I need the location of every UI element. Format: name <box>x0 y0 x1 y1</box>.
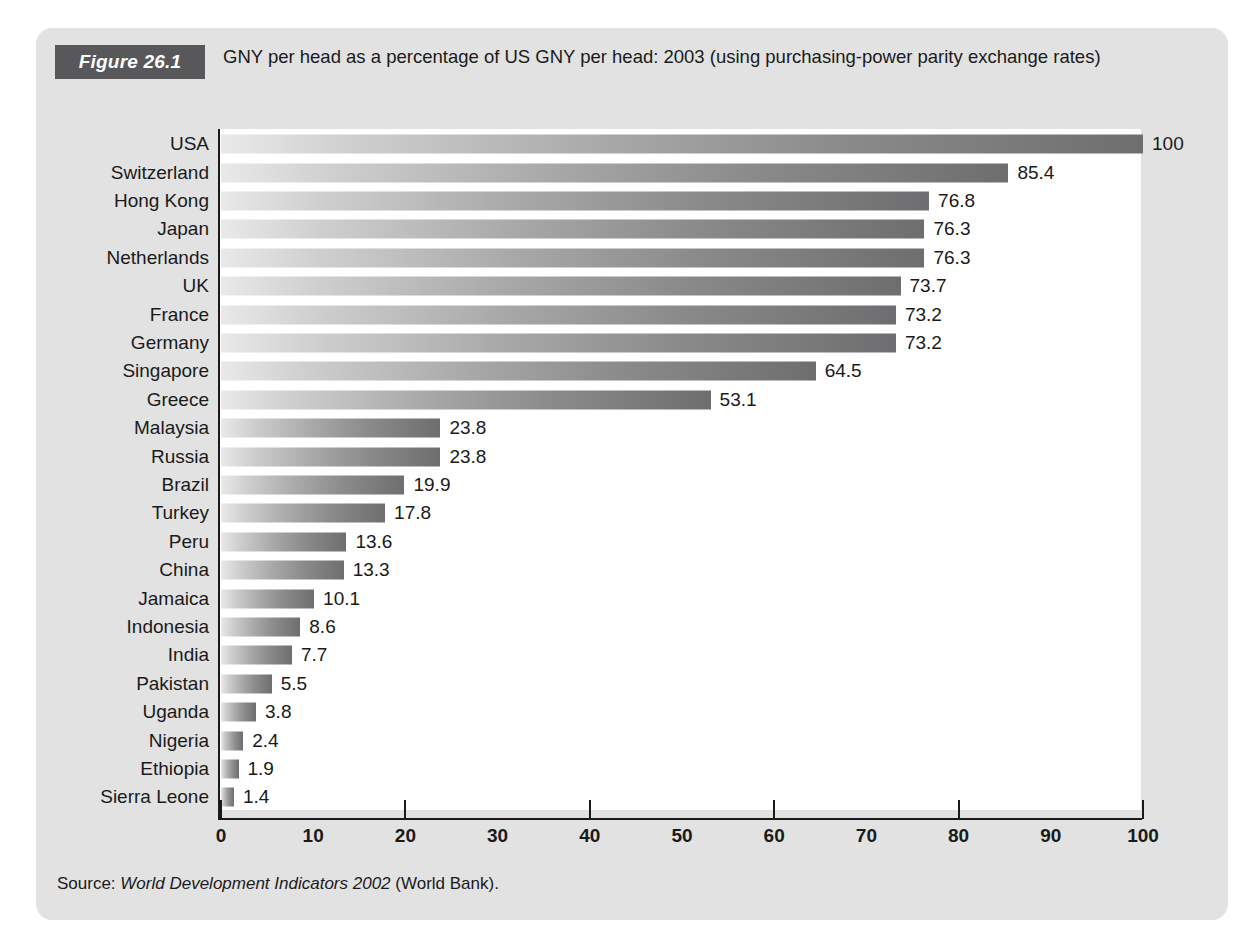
x-axis-tick-label: 0 <box>216 825 227 847</box>
x-axis-tick-label: 30 <box>487 825 508 847</box>
x-axis-tick-label: 50 <box>671 825 692 847</box>
bar-chart: USA100Switzerland85.4Hong Kong76.8Japan7… <box>36 28 1228 920</box>
x-axis-tick-label: 100 <box>1127 825 1159 847</box>
x-axis-tick-label: 80 <box>948 825 969 847</box>
x-axis-tick-label: 10 <box>303 825 324 847</box>
x-axis-tick-mark <box>404 800 406 819</box>
x-axis-tick-label: 40 <box>579 825 600 847</box>
x-axis-tick-label: 70 <box>856 825 877 847</box>
x-axis-tick-mark <box>589 800 591 819</box>
x-axis-tick-mark <box>773 800 775 819</box>
figure-source: Source: World Development Indicators 200… <box>57 874 499 894</box>
x-axis-tick-mark <box>958 800 960 819</box>
x-axis-tick-label: 90 <box>1040 825 1061 847</box>
x-axis-tick-label: 20 <box>395 825 416 847</box>
source-suffix: (World Bank). <box>391 874 499 893</box>
source-title: World Development Indicators 2002 <box>120 874 390 893</box>
figure-panel: Figure 26.1 GNY per head as a percentage… <box>36 28 1228 920</box>
x-axis: 0102030405060708090100 <box>36 28 1228 920</box>
figure-page: Figure 26.1 GNY per head as a percentage… <box>0 0 1256 950</box>
source-prefix: Source: <box>57 874 120 893</box>
x-axis-tick-mark <box>220 800 222 819</box>
x-axis-tick-mark <box>1142 800 1144 819</box>
x-axis-tick-label: 60 <box>764 825 785 847</box>
